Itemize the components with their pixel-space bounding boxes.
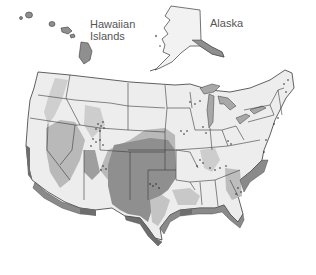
hawaii-label-line1: Hawaiian: [90, 18, 135, 30]
hawaii-label-line2: Islands: [90, 30, 135, 42]
us-map: [0, 0, 316, 275]
hawaii-label: Hawaiian Islands: [90, 18, 135, 42]
alaska-inset: [150, 6, 224, 71]
continental-us: [26, 70, 294, 246]
hawaii-inset: [20, 12, 93, 64]
alaska-label: Alaska: [210, 17, 243, 29]
